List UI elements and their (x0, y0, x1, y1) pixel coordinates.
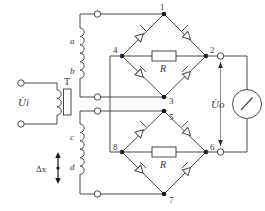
primary-winding (57, 83, 61, 124)
label-node-5: 5 (169, 112, 174, 122)
label-node-8: 8 (113, 142, 118, 152)
tap-terminal-4[interactable] (94, 191, 100, 197)
label-resistor-top: R (159, 63, 166, 74)
wire-node4-node8 (110, 56, 122, 152)
indicating-meter[interactable] (233, 90, 262, 119)
resistor-bottom (152, 147, 176, 157)
label-winding-a: a (70, 36, 75, 46)
label-node-6: 6 (210, 142, 215, 152)
input-terminal-bottom[interactable] (18, 121, 24, 127)
label-node-7: 7 (169, 195, 174, 205)
secondary-winding-upper (80, 14, 94, 97)
tap-terminal-1[interactable] (94, 11, 100, 17)
node-5 (162, 109, 167, 114)
node-7 (162, 192, 167, 197)
input-terminal-top[interactable] (18, 80, 24, 86)
label-node-1: 1 (160, 2, 165, 12)
output-terminal-negative[interactable] (217, 149, 223, 155)
displacement-arrow (55, 152, 61, 184)
label-displacement: Δx (36, 164, 47, 174)
tap-terminal-2[interactable] (94, 94, 100, 100)
label-input-voltage: U̇i (18, 96, 29, 108)
secondary-winding-lower (80, 111, 94, 194)
node-3 (162, 95, 167, 100)
label-winding-b: b (70, 66, 75, 76)
label-node-4: 4 (113, 45, 118, 55)
circuit-diagram: U̇i T Δx a b c d 1 2 3 4 R 5 6 7 8 R U̇o (0, 0, 265, 211)
tap-terminal-3[interactable] (94, 108, 100, 114)
node-1 (162, 12, 167, 17)
label-transformer: T (64, 76, 70, 87)
label-node-2: 2 (210, 45, 215, 55)
resistor-top (152, 51, 176, 61)
transformer-core (64, 89, 72, 115)
output-terminal-positive[interactable] (217, 53, 223, 59)
label-winding-c: c (70, 132, 74, 142)
label-winding-d: d (70, 162, 75, 172)
label-node-3: 3 (169, 96, 174, 106)
label-output-voltage: U̇o (211, 98, 225, 110)
label-resistor-bottom: R (159, 159, 166, 170)
